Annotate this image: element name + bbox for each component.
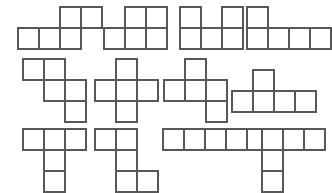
unit-square — [262, 150, 283, 171]
pentomino-p-pentomino — [103, 6, 168, 50]
unit-square — [116, 101, 137, 122]
unit-square — [65, 129, 86, 150]
pentomino-svg-11 — [162, 128, 269, 151]
unit-square — [262, 129, 283, 150]
pentomino-svg-3 — [179, 6, 244, 50]
unit-square — [81, 7, 102, 28]
unit-square — [65, 80, 86, 101]
unit-square — [116, 129, 137, 150]
unit-square — [304, 129, 325, 150]
unit-square — [295, 91, 316, 112]
pentomino-svg-7 — [163, 58, 228, 123]
unit-square — [18, 28, 39, 49]
unit-square — [23, 129, 44, 150]
unit-square — [125, 7, 146, 28]
unit-square — [137, 80, 158, 101]
pentomino-svg-2 — [103, 6, 168, 50]
unit-square — [180, 28, 201, 49]
pentomino-y-pentomino — [231, 69, 317, 113]
unit-square — [310, 28, 331, 49]
pentomino-svg-1 — [17, 6, 103, 50]
unit-square — [262, 171, 283, 192]
unit-square — [289, 28, 310, 49]
unit-square — [253, 70, 274, 91]
pentomino-svg-8 — [231, 69, 317, 113]
pentomino-t-pentomino — [22, 128, 87, 193]
unit-square — [253, 91, 274, 112]
unit-square — [44, 150, 65, 171]
unit-square — [247, 28, 268, 49]
unit-square — [39, 28, 60, 49]
unit-square — [274, 91, 295, 112]
unit-square — [65, 101, 86, 122]
pentomino-n-pentomino — [17, 6, 103, 50]
unit-square — [125, 28, 146, 49]
unit-square — [185, 59, 206, 80]
unit-square — [95, 129, 116, 150]
unit-square — [206, 101, 227, 122]
unit-square — [44, 80, 65, 101]
unit-square — [205, 129, 226, 150]
pentomino-x-pentomino — [94, 58, 159, 123]
unit-square — [206, 80, 227, 101]
unit-square — [116, 150, 137, 171]
unit-square — [247, 7, 268, 28]
unit-square — [23, 59, 44, 80]
unit-square — [44, 129, 65, 150]
pentomino-s-pentomino — [94, 128, 159, 193]
pentomino-svg-4 — [246, 6, 332, 50]
unit-square — [104, 28, 125, 49]
unit-square — [163, 129, 184, 150]
unit-square — [137, 171, 158, 192]
unit-square — [164, 80, 185, 101]
pentomino-v-pentomino — [261, 128, 326, 193]
unit-square — [201, 28, 222, 49]
unit-square — [222, 28, 243, 49]
unit-square — [116, 80, 137, 101]
unit-square — [268, 28, 289, 49]
unit-square — [116, 59, 137, 80]
unit-square — [116, 171, 137, 192]
unit-square — [44, 59, 65, 80]
unit-square — [232, 91, 253, 112]
pentomino-svg-9 — [22, 128, 87, 193]
unit-square — [60, 7, 81, 28]
pentomino-l-pentomino — [246, 6, 332, 50]
pentomino-svg-5 — [22, 58, 87, 123]
unit-square — [222, 7, 243, 28]
pentomino-svg-10 — [94, 128, 159, 193]
unit-square — [44, 171, 65, 192]
pentomino-i-pentomino — [162, 128, 269, 151]
pentomino-f-pentomino — [163, 58, 228, 123]
unit-square — [95, 80, 116, 101]
pentomino-svg-12 — [261, 128, 326, 193]
unit-square — [184, 129, 205, 150]
pentomino-u-pentomino — [179, 6, 244, 50]
unit-square — [146, 28, 167, 49]
unit-square — [180, 7, 201, 28]
pentomino-w-pentomino — [22, 58, 87, 123]
unit-square — [226, 129, 247, 150]
unit-square — [185, 80, 206, 101]
unit-square — [146, 7, 167, 28]
pentomino-svg-6 — [94, 58, 159, 123]
unit-square — [283, 129, 304, 150]
unit-square — [60, 28, 81, 49]
